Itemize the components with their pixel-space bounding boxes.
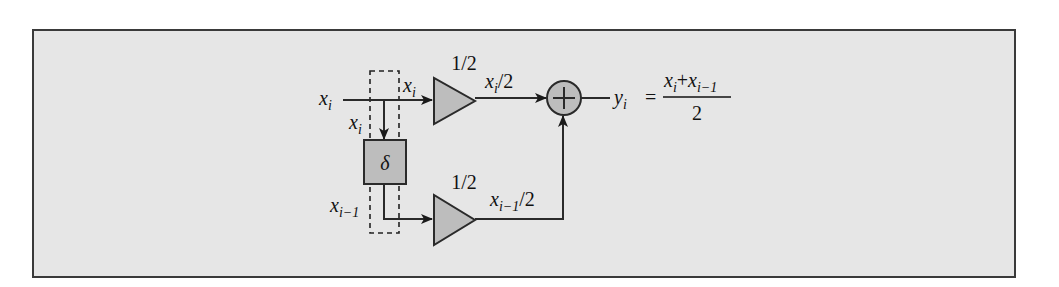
moving-average-diagram: δ 1/2 1/2 xi xi xi xi−1 xi/2 xi−1/2 yi = (0, 0, 1059, 287)
branch-down-label: xi (348, 111, 362, 137)
output-denominator: 2 (692, 102, 702, 124)
output-equals: = (645, 86, 656, 108)
delay-symbol: δ (380, 152, 390, 174)
gain-top-label: 1/2 (451, 52, 477, 74)
delay-output-label: xi−1 (329, 194, 359, 220)
gain-top-output-label: xi/2 (484, 70, 513, 96)
gain-bottom-output-label: xi−1/2 (489, 188, 535, 214)
output-numerator: xi+xi−1 (663, 69, 717, 95)
gain-top-triangle (434, 78, 475, 124)
branch-top-label: xi (402, 74, 416, 100)
gain-bottom-triangle (434, 195, 475, 245)
output-label: yi (612, 86, 627, 112)
input-label: xi (318, 87, 332, 113)
delay-output-line (384, 184, 432, 219)
gain-bottom-label: 1/2 (451, 171, 477, 193)
